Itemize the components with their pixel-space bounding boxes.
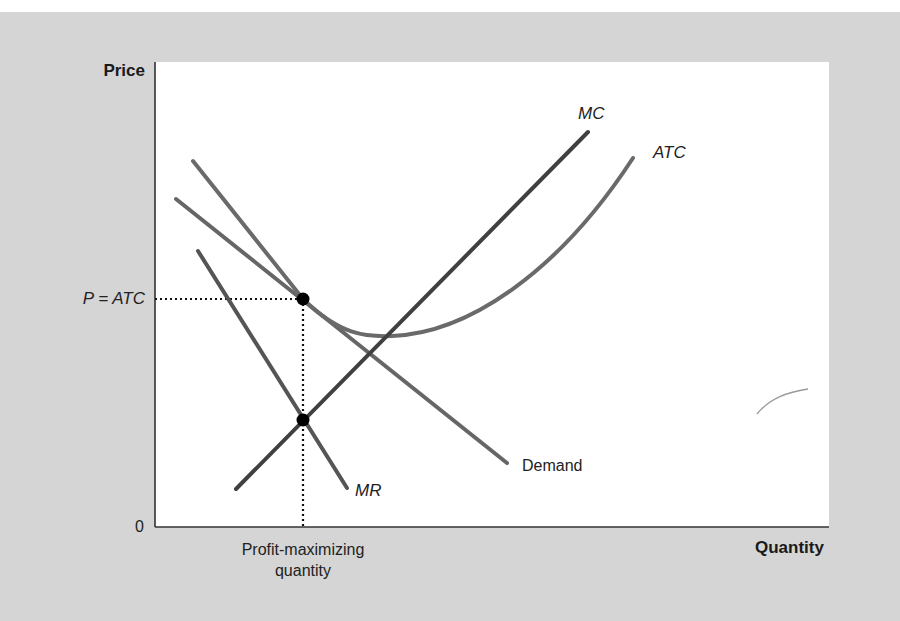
quantity-level-label-line1: Profit-maximizing bbox=[228, 539, 378, 560]
mr-label: MR bbox=[355, 481, 381, 501]
tangency-point bbox=[297, 293, 310, 306]
x-axis-label: Quantity bbox=[755, 538, 824, 558]
mr-mc-intersection-point bbox=[297, 414, 310, 427]
quantity-level-label: Profit-maximizing quantity bbox=[228, 539, 378, 581]
y-axis-label: Price bbox=[95, 61, 145, 81]
mc-label: MC bbox=[578, 104, 604, 124]
mc-curve bbox=[236, 132, 588, 489]
origin-label: 0 bbox=[135, 518, 144, 536]
quantity-level-label-line2: quantity bbox=[228, 560, 378, 581]
demand-label: Demand bbox=[522, 457, 582, 475]
stray-mark bbox=[757, 389, 808, 414]
atc-label: ATC bbox=[653, 143, 686, 163]
price-level-label: P = ATC bbox=[72, 289, 145, 309]
demand-curve bbox=[176, 199, 507, 463]
